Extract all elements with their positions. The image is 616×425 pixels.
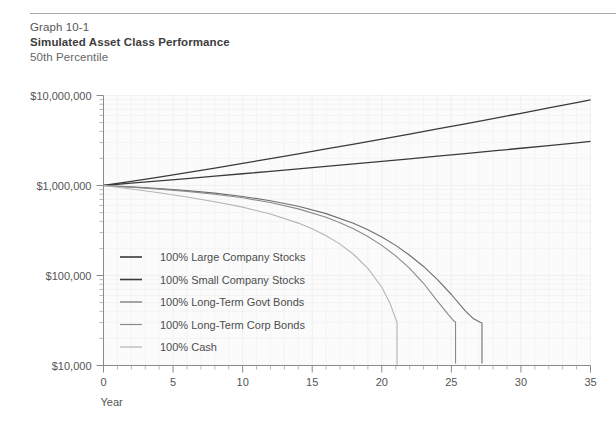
x-tick-label: 20: [376, 376, 388, 388]
y-tick-label: $10,000: [52, 360, 92, 372]
legend-label-4: 100% Cash: [160, 341, 217, 353]
x-tick-label: 5: [170, 376, 176, 388]
y-tick-label: $1,000,000: [36, 180, 91, 192]
legend-label-1: 100% Small Company Stocks: [160, 274, 305, 286]
x-tick-label: 25: [445, 376, 457, 388]
legend-label-3: 100% Long-Term Corp Bonds: [160, 319, 305, 331]
chart-page: Graph 10-1 Simulated Asset Class Perform…: [0, 0, 616, 425]
y-axis-tick-labels: $10,000,000$1,000,000$100,000$10,000: [30, 90, 91, 372]
x-tick-label: 35: [584, 376, 596, 388]
x-axis-title: Year: [101, 396, 124, 408]
x-tick-label: 10: [237, 376, 249, 388]
line-chart: $10,000,000$1,000,000$100,000$10,000 051…: [0, 0, 616, 425]
x-tick-label: 30: [515, 376, 527, 388]
x-tick-label: 15: [306, 376, 318, 388]
y-tick-label: $10,000,000: [30, 90, 91, 102]
legend-label-0: 100% Large Company Stocks: [160, 251, 306, 263]
x-tick-label: 0: [100, 376, 106, 388]
y-tick-label: $100,000: [46, 270, 92, 282]
legend-label-2: 100% Long-Term Govt Bonds: [160, 296, 305, 308]
x-axis-tick-labels: 05101520253035: [100, 376, 596, 388]
